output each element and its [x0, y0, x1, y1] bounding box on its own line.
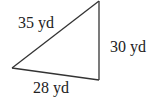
- triangle-shape: [12, 1, 99, 80]
- triangle-side-left: [12, 1, 99, 68]
- label-side-left: 35 yd: [18, 14, 54, 32]
- triangle-diagram: 35 yd 30 yd 28 yd: [0, 0, 155, 103]
- label-side-bottom: 28 yd: [33, 79, 69, 97]
- label-side-right: 30 yd: [110, 38, 146, 56]
